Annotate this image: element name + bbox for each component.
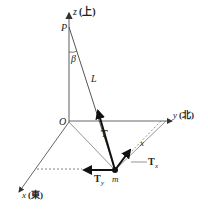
tension-y-label: T [94, 173, 101, 184]
x-axis [19, 122, 69, 192]
origin-label: O [59, 116, 66, 127]
x-direction-label: (東) [28, 189, 43, 200]
mass-label: m [112, 174, 119, 184]
mass-point [112, 167, 118, 173]
y-direction-label: (北) [179, 109, 194, 120]
y-axis-label: y [172, 110, 177, 120]
tension-label: T [101, 128, 108, 139]
pivot-label: P [60, 22, 67, 33]
x-dashed-line [127, 121, 161, 156]
z-axis-label: z [72, 6, 77, 17]
x-axis-label: x [21, 190, 26, 200]
x-projection-label: x [139, 138, 144, 148]
tension-x-subscript: x [154, 162, 159, 170]
tension-y-subscript: y [100, 179, 105, 187]
pendulum-diagram: z (上) P β L O y (北) x (東) T x T x T y m [0, 0, 208, 212]
tension-x-label: T [148, 156, 155, 167]
z-direction-label: (上) [79, 5, 96, 18]
length-label: L [90, 73, 97, 84]
tension-x-arrow [115, 150, 130, 170]
angle-label: β [70, 53, 76, 64]
